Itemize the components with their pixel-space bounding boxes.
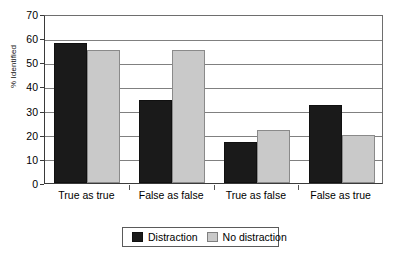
x-axis-tick-mark: [214, 185, 215, 190]
x-axis-tick-mark: [129, 185, 130, 190]
legend-label: No distraction: [223, 232, 287, 243]
bar: [257, 130, 290, 183]
y-tick-label: 50: [4, 58, 38, 68]
plot-area: [44, 15, 383, 184]
legend-item-no-distraction: No distraction: [207, 232, 287, 243]
bar: [54, 43, 87, 183]
y-tick-label: 20: [4, 131, 38, 141]
legend-label: Distraction: [148, 232, 198, 243]
y-tick-label: 40: [4, 82, 38, 92]
y-tick-label: 30: [4, 107, 38, 117]
legend-swatch-icon: [132, 232, 143, 242]
bar: [172, 50, 205, 183]
y-tick-label: 70: [4, 10, 38, 20]
x-axis-label: True as false: [214, 189, 299, 202]
x-axis-tick-mark: [298, 185, 299, 190]
y-tick-label: 60: [4, 34, 38, 44]
bar: [87, 50, 120, 183]
bar-chart: % Identified 010203040506070 True as tru…: [0, 0, 393, 254]
bar: [309, 105, 342, 183]
legend-item-distraction: Distraction: [132, 232, 198, 243]
bar: [139, 100, 172, 183]
bar: [342, 135, 375, 183]
bar: [224, 142, 257, 183]
chart-legend: Distraction No distraction: [122, 227, 279, 247]
x-axis-label: True as true: [44, 189, 129, 202]
gridline: [45, 40, 382, 41]
y-tick-mark: [40, 184, 44, 185]
legend-swatch-icon: [207, 232, 218, 242]
x-axis-label: False as false: [129, 189, 214, 202]
y-tick-label: 0: [4, 179, 38, 189]
y-tick-label: 10: [4, 155, 38, 165]
x-axis-label: False as true: [298, 189, 383, 202]
